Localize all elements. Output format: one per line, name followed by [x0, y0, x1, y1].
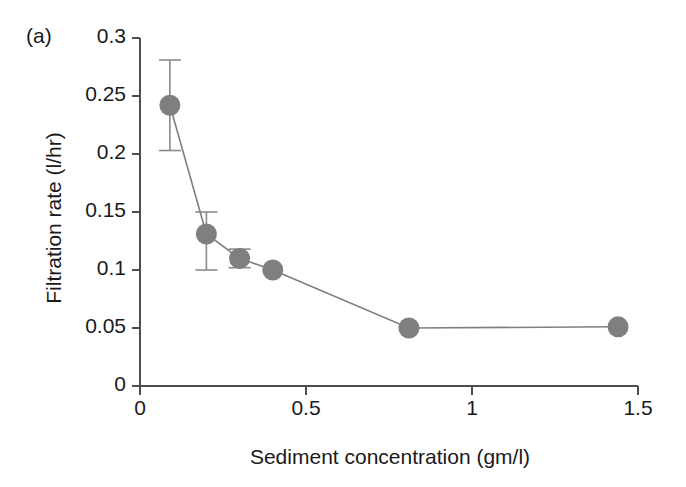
data-point-marker — [398, 318, 419, 339]
figure-panel-a: (a) Filtration rate (l/hr) 00.050.10.150… — [0, 0, 686, 487]
data-point-marker — [159, 95, 180, 116]
data-point-marker — [196, 224, 217, 245]
data-point-marker — [262, 260, 283, 281]
plot-area — [0, 0, 686, 487]
data-point-marker — [608, 316, 629, 337]
x-axis-title: Sediment concentration (gm/l) — [140, 445, 640, 469]
data-series-line — [170, 105, 618, 328]
data-point-marker — [229, 248, 250, 269]
